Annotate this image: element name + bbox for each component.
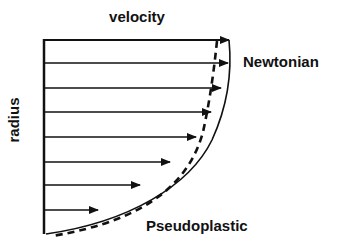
y-axis-label: radius <box>5 97 22 142</box>
pseudoplastic-label: Pseudoplastic <box>146 217 248 234</box>
newtonian-label: Newtonian <box>243 53 319 70</box>
pseudoplastic-profile-curve <box>52 41 217 236</box>
velocity-profile-diagram: velocity radius Newtonian Pseudoplastic <box>0 0 357 241</box>
x-axis-label: velocity <box>109 8 166 25</box>
velocity-arrows <box>44 40 229 210</box>
